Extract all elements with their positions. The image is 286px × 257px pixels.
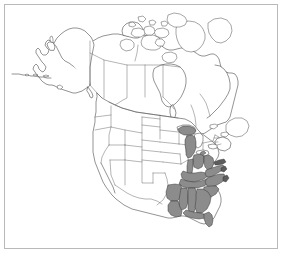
range-map-figure — [0, 0, 286, 257]
aleutian-island-1 — [25, 74, 29, 76]
ellesmere-island — [167, 13, 187, 27]
alaska-panhandle — [87, 87, 93, 98]
greenland-fragment — [208, 18, 232, 43]
yukon-nwt-border — [90, 53, 104, 98]
lake-ontario — [208, 144, 217, 149]
newfoundland-island — [226, 118, 249, 137]
arctic-islet-c — [161, 21, 168, 26]
banks-island — [120, 39, 134, 51]
arctic-islet-a — [149, 20, 156, 25]
north-america-map — [5, 5, 279, 250]
alaska-region — [12, 28, 94, 98]
melville-island — [131, 28, 145, 37]
arctic-islet-b — [138, 16, 146, 22]
map-frame-border — [4, 4, 278, 249]
shaded-mississippi — [179, 188, 188, 210]
